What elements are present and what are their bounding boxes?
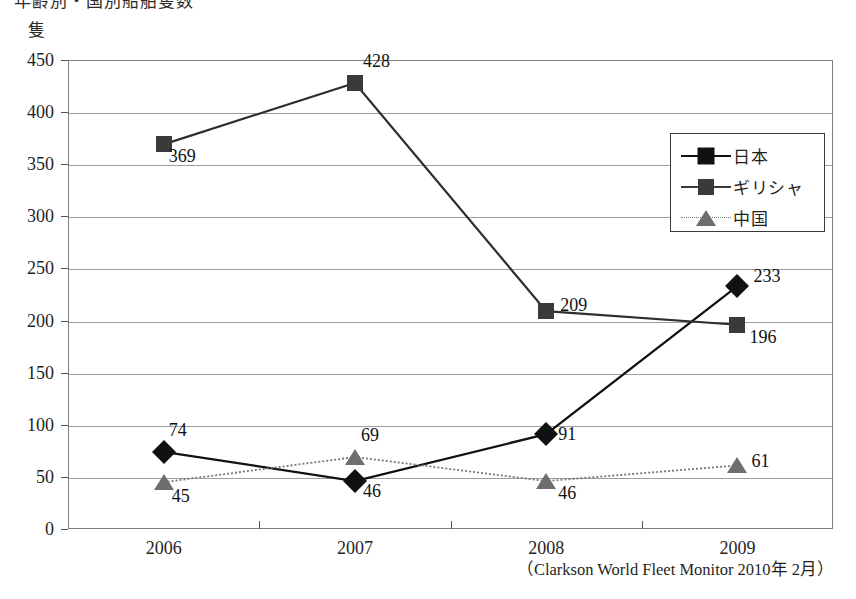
square-marker-icon xyxy=(729,317,745,333)
legend-item[interactable]: ギリシャ xyxy=(671,171,824,202)
legend-label: ギリシャ xyxy=(733,174,803,199)
triangle-marker-icon xyxy=(154,474,174,490)
legend-marker-sample xyxy=(679,206,733,230)
square-marker-icon xyxy=(347,75,363,91)
legend-label: 日本 xyxy=(733,143,768,168)
square-marker-icon xyxy=(538,303,554,319)
legend-item[interactable]: 中国 xyxy=(671,202,824,233)
data-point-label: 196 xyxy=(749,327,776,348)
legend-item[interactable]: 日本 xyxy=(671,140,824,171)
data-point-label: 69 xyxy=(361,425,379,446)
legend-marker-sample xyxy=(679,175,733,199)
chart-page: 年齢別・国別船舶隻数 隻 050100150200250300350400450… xyxy=(0,0,856,599)
data-point-label: 428 xyxy=(363,51,390,72)
data-point-label: 233 xyxy=(753,266,780,287)
series-line-日本 xyxy=(164,286,738,481)
square-marker-icon xyxy=(698,179,714,195)
data-point-label: 61 xyxy=(751,451,769,472)
data-point-label: 46 xyxy=(558,483,576,504)
triangle-marker-icon xyxy=(536,473,556,489)
data-point-label: 369 xyxy=(169,146,196,167)
data-point-label: 74 xyxy=(169,420,187,441)
triangle-marker-icon xyxy=(345,449,365,465)
data-point-label: 46 xyxy=(363,481,381,502)
data-point-label: 209 xyxy=(560,295,587,316)
series-line-中国 xyxy=(164,457,738,482)
series-line-ギリシャ xyxy=(164,83,738,325)
data-point-label: 91 xyxy=(558,424,576,445)
triangle-marker-icon xyxy=(696,210,716,226)
legend-label: 中国 xyxy=(733,205,768,230)
legend-marker-sample xyxy=(679,144,733,168)
triangle-marker-icon xyxy=(727,457,747,473)
data-point-label: 45 xyxy=(172,486,190,507)
chart-legend: 日本ギリシャ中国 xyxy=(670,133,825,232)
series-lines xyxy=(0,0,856,599)
source-note: （Clarkson World Fleet Monitor 2010年 2月） xyxy=(0,556,834,580)
diamond-marker-icon xyxy=(698,147,715,164)
